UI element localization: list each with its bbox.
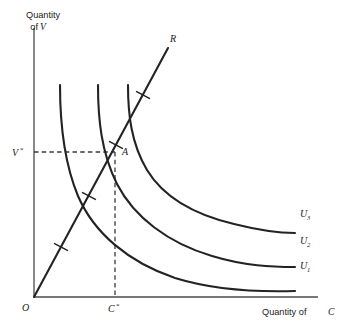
y-star-asterisk: * [20, 146, 24, 154]
ray-r-label: R [169, 33, 176, 44]
curve-u3-label-sub: 3 [306, 214, 310, 221]
y-axis-title-line2-prefix: of [30, 22, 38, 32]
x-star-label: C [108, 303, 115, 314]
y-axis-title-line1: Quantity [26, 10, 61, 20]
indifference-curve-figure: Quantity of V Quantity of C O V * C * A … [0, 0, 362, 330]
x-axis-title-var: C [328, 306, 335, 317]
x-star-asterisk: * [116, 302, 120, 310]
x-axis-title-prefix: Quantity of [262, 307, 307, 317]
y-star-label: V [12, 147, 20, 158]
curve-u1 [60, 85, 295, 291]
origin-label: O [22, 302, 29, 313]
y-axis-title-line2-var: V [40, 21, 47, 32]
point-a-label: A [121, 146, 129, 157]
plot-canvas: Quantity of V Quantity of C O V * C * A … [0, 0, 362, 330]
curve-u1-label-sub: 1 [307, 266, 310, 273]
curve-u2 [98, 85, 295, 267]
curve-u2-label-sub: 2 [307, 241, 311, 248]
curve-u3 [128, 85, 295, 233]
